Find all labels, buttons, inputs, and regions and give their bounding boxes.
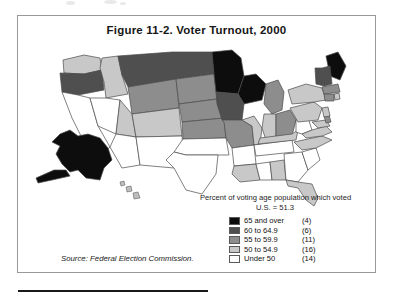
source-note: Source: Federal Election Commission. bbox=[61, 254, 194, 263]
state-arizona bbox=[110, 134, 140, 168]
legend-item-label: 60 to 64.9 bbox=[244, 227, 302, 235]
state-kansas bbox=[182, 118, 226, 139]
legend-item-count: (4) bbox=[302, 217, 311, 225]
legend-swatch-icon bbox=[229, 227, 240, 235]
legend-item-count: (14) bbox=[302, 255, 316, 263]
legend-swatch-icon bbox=[229, 246, 240, 254]
scan-artifact bbox=[120, 2, 126, 5]
state-alabama bbox=[270, 160, 286, 180]
scan-artifact bbox=[66, 1, 75, 5]
state-louisiana bbox=[232, 164, 260, 182]
alaska-aleutians bbox=[36, 170, 70, 183]
state-new-york bbox=[288, 84, 326, 104]
figure-title: Figure 11-2. Voter Turnout, 2000 bbox=[18, 24, 375, 36]
state-oklahoma bbox=[174, 138, 229, 155]
legend-item-label: Under 50 bbox=[244, 255, 302, 263]
us-choropleth-map bbox=[26, 42, 366, 207]
legend-item-label: 50 to 54.9 bbox=[244, 246, 302, 254]
state-michigan bbox=[264, 80, 284, 114]
figure-frame: Figure 11-2. Voter Turnout, 2000 bbox=[17, 15, 376, 273]
state-north-carolina bbox=[294, 136, 332, 150]
legend-item-label: 55 to 59.9 bbox=[244, 236, 302, 244]
legend-swatch-icon bbox=[229, 217, 240, 225]
state-hawaii bbox=[120, 181, 140, 199]
state-new-jersey bbox=[322, 107, 330, 117]
map-legend: Percent of voting age population which v… bbox=[200, 193, 372, 264]
legend-entries: 65 and over (4) 60 to 64.9 (6) 55 to 59.… bbox=[200, 216, 372, 264]
state-vermont bbox=[315, 68, 324, 86]
legend-item-count: (16) bbox=[302, 246, 316, 254]
legend-item-label: 65 and over bbox=[244, 217, 302, 225]
bottom-rule bbox=[18, 290, 208, 292]
legend-item: 50 to 54.9 (16) bbox=[229, 245, 372, 255]
state-arkansas bbox=[232, 145, 256, 166]
legend-swatch-icon bbox=[229, 236, 240, 244]
legend-caption: Percent of voting age population which v… bbox=[200, 193, 372, 202]
scan-artifact bbox=[104, 0, 117, 4]
legend-national-average: U.S. = 51.3 bbox=[200, 203, 372, 213]
state-connecticut bbox=[324, 94, 334, 101]
state-rhode-island bbox=[334, 93, 340, 100]
legend-swatch-icon bbox=[229, 255, 240, 263]
state-texas bbox=[166, 152, 218, 194]
legend-item-count: (6) bbox=[302, 227, 311, 235]
legend-item: 60 to 64.9 (6) bbox=[229, 226, 372, 236]
state-minnesota bbox=[212, 50, 244, 94]
legend-item: Under 50 (14) bbox=[229, 254, 372, 264]
map-svg bbox=[26, 42, 366, 207]
state-oregon bbox=[60, 70, 104, 95]
legend-item-count: (11) bbox=[302, 236, 315, 244]
legend-item: 65 and over (4) bbox=[229, 216, 372, 226]
legend-item: 55 to 59.9 (11) bbox=[229, 235, 372, 245]
